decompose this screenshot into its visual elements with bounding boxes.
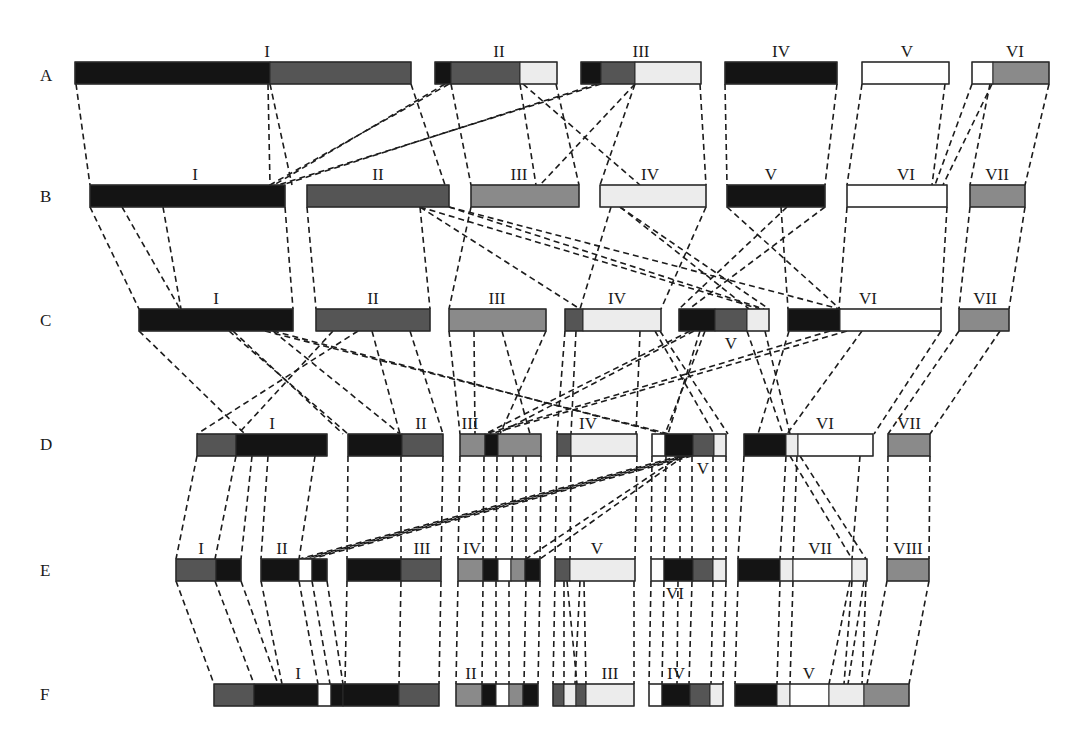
block-f-iii: III [553, 664, 634, 706]
block-label: I [264, 42, 270, 61]
block-label: V [697, 459, 710, 478]
segment-light [714, 434, 726, 456]
block-label: V [765, 165, 778, 184]
block-label: I [213, 289, 219, 308]
segment-dark [451, 62, 520, 84]
homology-link [483, 456, 484, 559]
homology-link [844, 581, 852, 684]
row-label-d: D [40, 435, 52, 454]
segment-dark [557, 434, 571, 456]
homology-link [261, 456, 268, 559]
segment-dark [402, 434, 443, 456]
homology-link [273, 331, 400, 434]
row-label-e: E [40, 561, 50, 580]
homology-link [540, 84, 635, 185]
block-label: IV [463, 539, 482, 558]
homology-link [829, 581, 850, 684]
segment-white [972, 62, 993, 84]
homology-link [689, 581, 692, 684]
homology-link [538, 581, 540, 684]
block-label: IV [641, 165, 660, 184]
row-label-b: B [40, 187, 51, 206]
homology-link [700, 84, 706, 185]
row-f: IIIIIIIVV [214, 664, 909, 706]
homology-link [327, 581, 343, 684]
segment-black [482, 684, 496, 706]
segment-dark [601, 62, 635, 84]
homology-link [270, 84, 292, 185]
block-d-vii: VII [888, 414, 930, 456]
segment-black [665, 434, 693, 456]
segment-mid [887, 559, 929, 581]
row-c: IIIIIIIVVVIVII [139, 289, 1009, 353]
segment-light [829, 684, 864, 706]
homology-link [241, 456, 252, 559]
segment-white [496, 684, 509, 706]
block-label: VII [973, 289, 997, 308]
segment-white [649, 684, 662, 706]
block-label: III [414, 539, 431, 558]
block-c-i: I [139, 289, 293, 331]
homology-link [553, 581, 555, 684]
segment-white [862, 62, 949, 84]
segment-mid [449, 309, 546, 331]
block-label: V [725, 334, 738, 353]
block-label: VII [808, 539, 832, 558]
block-e-vi: VI [651, 559, 726, 603]
homology-link [929, 456, 930, 559]
segment-black [348, 434, 402, 456]
homology-link [90, 207, 139, 309]
block-e-i: I [176, 539, 241, 581]
segment-mid [864, 684, 909, 706]
segment-black [139, 309, 293, 331]
block-label: VI [666, 584, 684, 603]
segment-mid [458, 559, 483, 581]
homology-link [847, 84, 862, 185]
segment-dark [214, 684, 254, 706]
block-label: II [415, 414, 427, 433]
segment-black [216, 559, 241, 581]
block-label: III [602, 664, 619, 683]
block-label: VI [1006, 42, 1024, 61]
segment-dark [316, 309, 430, 331]
block-label: IV [608, 289, 627, 308]
homology-link [1009, 207, 1025, 309]
homology-link [176, 456, 197, 559]
homology-link [441, 456, 443, 559]
segment-black [679, 309, 715, 331]
block-b-i: I [90, 165, 285, 207]
block-e-vii: VII [738, 539, 867, 581]
block-label: III [633, 42, 650, 61]
segment-light [586, 684, 634, 706]
segment-black [312, 559, 327, 581]
segment-black [483, 559, 498, 581]
segment-black [725, 62, 837, 84]
homology-link [347, 456, 348, 559]
segment-mid [511, 559, 525, 581]
block-label: I [269, 414, 275, 433]
homology-link [449, 207, 471, 309]
homology-link [636, 331, 640, 434]
block-f-ii: II [456, 664, 538, 706]
segment-dark [576, 684, 586, 706]
segment-dark [693, 434, 714, 456]
homology-link [620, 207, 749, 309]
block-a-v: V [862, 42, 949, 84]
segment-light [520, 62, 557, 84]
homology-link [862, 581, 866, 684]
segment-light [710, 684, 723, 706]
homology-link [725, 84, 727, 185]
block-d-iv: IV [557, 414, 637, 456]
block-c-vi: VI [788, 289, 941, 331]
block-label: IV [667, 664, 686, 683]
segment-mid [993, 62, 1049, 84]
row-label-a: A [40, 66, 53, 85]
segment-black [435, 62, 451, 84]
segment-light [571, 434, 637, 456]
segment-dark [307, 185, 449, 207]
homology-link [215, 456, 236, 559]
block-e-iv: IV [458, 539, 540, 581]
block-label: VI [897, 165, 915, 184]
segment-dark [176, 559, 216, 581]
segment-light [747, 309, 769, 331]
